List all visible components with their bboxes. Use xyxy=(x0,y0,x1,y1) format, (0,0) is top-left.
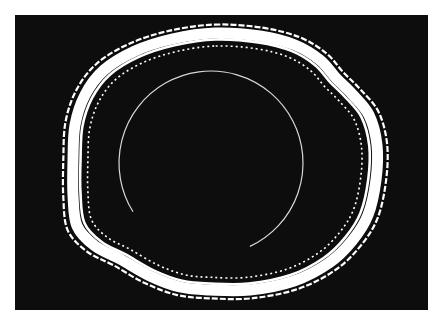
segmentation-image xyxy=(0,0,442,326)
